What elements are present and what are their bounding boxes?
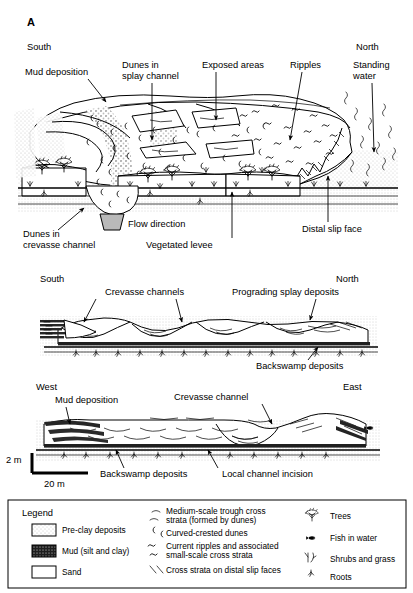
mud-fringe-left	[14, 108, 36, 178]
flow-direction-arrow	[100, 214, 124, 230]
splay-sheet-body-bottom	[44, 414, 366, 447]
direction-label-north-mid: North	[336, 274, 359, 284]
legend-label-trees: Trees	[330, 511, 351, 521]
label-backswamp-bottom: Backswamp deposits	[100, 469, 188, 479]
label-dunes-crevasse-line2: crevasse channel	[23, 240, 95, 250]
label-standing-water-line2: water	[352, 71, 376, 81]
figure-canvas: A South North	[0, 0, 413, 593]
trough-cross-strata-icon	[150, 511, 160, 521]
mud-layer-mid	[58, 342, 370, 345]
legend-label-roots: Roots	[330, 572, 352, 582]
label-distal-slip-face: Distal slip face	[302, 224, 362, 234]
label-crevasse-channels: Crevasse channels	[105, 287, 184, 297]
legend-label-fish: Fish in water	[330, 533, 377, 543]
direction-label-south-top: South	[27, 42, 51, 52]
legend-label-trough-line2: strata (formed by dunes)	[166, 515, 257, 525]
label-prograding-splay: Prograding splay deposits	[232, 287, 339, 297]
legend-column-3: Trees Fish in water Shrubs and grass Roo…	[305, 508, 395, 582]
label-mud-deposition-block: Mud deposition	[25, 67, 88, 77]
tree-icon	[306, 508, 319, 521]
cross-section-west-east-panel: West East	[6, 382, 380, 489]
legend-label-sand: Sand	[62, 567, 82, 577]
panel-label-a: A	[27, 16, 35, 28]
label-flow-direction: Flow direction	[128, 219, 185, 229]
label-dunes-splay-line2: splay channel	[122, 71, 179, 81]
current-ripple-icon	[148, 545, 157, 556]
splay-sheet-body-mid	[58, 318, 368, 344]
label-vegetated-levee: Vegetated levee	[146, 240, 213, 250]
shrubs-grass-icon	[305, 553, 316, 562]
mud-layer-bottom	[44, 444, 366, 448]
direction-label-west: West	[36, 382, 57, 392]
scale-label-vertical: 2 m	[6, 455, 22, 465]
label-dunes-crevasse-line1: Dunes in	[23, 229, 60, 239]
label-backswamp-mid: Backswamp deposits	[256, 361, 344, 371]
legend-label-slip-face: Cross strata on distal slip faces	[166, 565, 281, 575]
legend-label-shrubs: Shrubs and grass	[330, 554, 395, 564]
legend-label-ripples-line2: small-scale cross strata	[166, 550, 253, 560]
mud-wedge-left-bottom	[44, 420, 108, 443]
pre-clay-stipple-swatch	[32, 524, 56, 536]
block-diagram-panel: South North	[14, 42, 398, 250]
legend-column-1: Pre-clay deposits Mud (silt and clay) Sa…	[32, 524, 130, 578]
sand-white-swatch	[32, 566, 56, 578]
legend-panel: Legend Pre-clay deposits Mud (silt and c…	[8, 500, 406, 588]
label-local-incision: Local channel incision	[222, 469, 313, 479]
scale-label-horizontal: 20 m	[44, 479, 65, 489]
legend-label-pre-clay: Pre-clay deposits	[62, 525, 126, 535]
leader-standing-water	[372, 83, 374, 152]
label-crevasse-channel-bottom: Crevasse channel	[174, 392, 248, 402]
slip-face-cross-strata-icon	[150, 566, 163, 573]
label-standing-water-line1: Standing	[353, 60, 390, 70]
legend-label-curved-dunes: Curved-crested dunes	[166, 528, 248, 538]
legend-label-mud: Mud (silt and clay)	[62, 546, 130, 556]
direction-label-north-top: North	[356, 42, 379, 52]
legend-column-2: Medium-scale trough cross strata (formed…	[148, 506, 281, 575]
roots-icon	[308, 570, 313, 576]
legend-title: Legend	[22, 508, 53, 518]
direction-label-south-mid: South	[40, 274, 64, 284]
mud-dark-swatch	[32, 545, 56, 557]
label-exposed-areas: Exposed areas	[202, 60, 264, 70]
fish-icon	[306, 536, 315, 540]
figure-root: A South North	[0, 0, 413, 593]
cross-section-south-north-panel: South North	[40, 274, 378, 371]
curved-crested-dune-icon	[153, 527, 163, 537]
label-dunes-splay-line1: Dunes in	[122, 60, 159, 70]
label-mud-deposition-bottom: Mud deposition	[55, 395, 118, 405]
label-ripples: Ripples	[290, 60, 321, 70]
direction-label-east: East	[343, 382, 362, 392]
